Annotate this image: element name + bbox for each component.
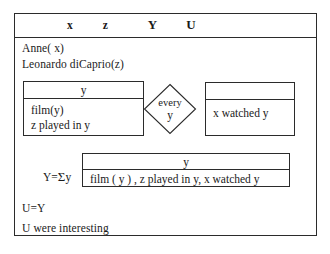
condition-anne: Anne( x) bbox=[22, 42, 64, 54]
scope-conditions: x watched y bbox=[206, 100, 294, 125]
condition-leonardo-dicaprio: Leonardo diCaprio(z) bbox=[22, 58, 124, 70]
universe-variable-x: x bbox=[67, 19, 73, 31]
scope-condition-watched: x watched y bbox=[213, 106, 287, 121]
summation-suffix: y bbox=[65, 171, 71, 183]
restrictor-universe: y bbox=[24, 82, 143, 99]
condition-u-equals-y: U=Y bbox=[22, 202, 45, 214]
outer-universe-variables: x z Y U bbox=[67, 17, 196, 33]
universe-variable-Y: Y bbox=[148, 17, 157, 33]
diagram-canvas: x z Y U Anne( x) Leonardo diCaprio(z) y … bbox=[0, 0, 330, 254]
summation-label: Y=Σy bbox=[43, 169, 71, 185]
restrictor-drs-box: y film(y) z played in y bbox=[23, 81, 144, 136]
outer-drs-box: x z Y U Anne( x) Leonardo diCaprio(z) y … bbox=[14, 13, 317, 236]
restrictor-condition-played-in: z played in y bbox=[31, 118, 136, 133]
quantifier-word: every bbox=[158, 96, 181, 109]
summation-condition-line: film ( y ) , z played in y, x watched y bbox=[90, 172, 282, 187]
outer-universe-row: x z Y U bbox=[15, 14, 316, 38]
duplex-condition-diamond: every y bbox=[143, 83, 197, 135]
universe-variable-U: U bbox=[186, 17, 195, 33]
restrictor-conditions: film(y) z played in y bbox=[24, 99, 143, 137]
restrictor-condition-film: film(y) bbox=[31, 103, 136, 118]
summation-universe: y bbox=[83, 154, 289, 170]
universe-variable-z: z bbox=[103, 19, 108, 31]
diamond-label: every y bbox=[143, 83, 197, 135]
condition-u-were-interesting: U were interesting bbox=[22, 222, 109, 234]
summation-drs-box: y film ( y ) , z played in y, x watched … bbox=[82, 153, 290, 187]
quantifier-variable: y bbox=[167, 109, 173, 122]
scope-drs-box: x watched y bbox=[205, 82, 295, 136]
summation-conditions: film ( y ) , z played in y, x watched y bbox=[83, 170, 289, 189]
scope-universe bbox=[206, 83, 294, 100]
summation-prefix: Y= bbox=[43, 171, 58, 183]
